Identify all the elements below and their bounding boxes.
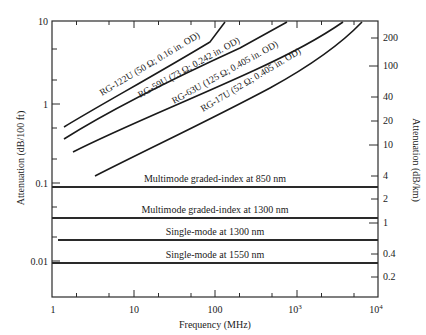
y-left-tick-0.1: 0.1 (36, 178, 49, 189)
y-right-tick-1: 1 (383, 217, 388, 228)
y-right-tick-100: 100 (383, 60, 398, 71)
label-sm-1550: Single-mode at 1550 nm (166, 249, 265, 260)
label-sm-1300: Single-mode at 1300 nm (166, 226, 265, 237)
x-tick-10000: 104 (369, 303, 383, 315)
label-mm-850: Multimode graded-index at 850 nm (144, 173, 286, 184)
x-axis-title: Frequency (MHz) (179, 319, 251, 331)
y-right-tick-200: 200 (383, 32, 398, 43)
x-tick-1: 1 (51, 304, 56, 315)
label-mm-1300: Multimode graded-index at 1300 nm (141, 204, 288, 215)
attenuation-chart: RG-122U (50 Ω; 0.16 in. OD) RG-59U (73 Ω… (0, 0, 426, 335)
y-right-tick-0.2: 0.2 (383, 271, 396, 282)
y-axis-right-title: Attenuation (dB/km) (410, 118, 422, 202)
x-tick-1000: 103 (288, 303, 302, 315)
y-right-tick-2: 2 (383, 193, 388, 204)
y-axis-left-ticks (52, 49, 60, 261)
y-axis-right-ticks (369, 38, 378, 277)
y-left-tick-0.01: 0.01 (31, 256, 49, 267)
x-tick-100: 100 (208, 304, 223, 315)
y-left-tick-1: 1 (43, 99, 48, 110)
y-right-tick-10: 10 (383, 139, 393, 150)
x-tick-10: 10 (129, 304, 139, 315)
y-right-tick-4: 4 (383, 170, 388, 181)
y-right-tick-40: 40 (383, 91, 393, 102)
y-left-tick-10: 10 (38, 16, 48, 27)
y-right-tick-0.4: 0.4 (383, 248, 396, 259)
y-axis-left-title: Attenuation (dB/100 ft) (15, 111, 27, 205)
y-right-tick-20: 20 (383, 115, 393, 126)
